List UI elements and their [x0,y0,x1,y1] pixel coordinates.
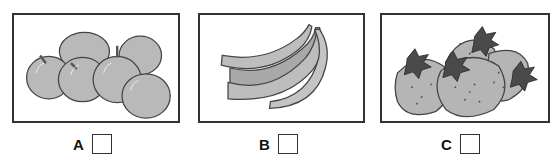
option-a-checkbox[interactable] [92,134,112,154]
option-a: A [73,134,112,154]
picture-panel-apples [12,13,180,123]
option-c-checkbox[interactable] [460,134,480,154]
option-letter: C [441,136,452,153]
option-b: B [259,134,298,154]
picture-panel-bananas [198,13,365,123]
apples-illustration [14,15,178,121]
option-c: C [441,134,480,154]
strawberries-illustration [382,15,548,121]
option-letter: B [259,136,270,153]
option-b-checkbox[interactable] [278,134,298,154]
option-letter: A [73,136,84,153]
bananas-illustration [200,15,363,121]
picture-panel-strawberries [380,13,550,123]
